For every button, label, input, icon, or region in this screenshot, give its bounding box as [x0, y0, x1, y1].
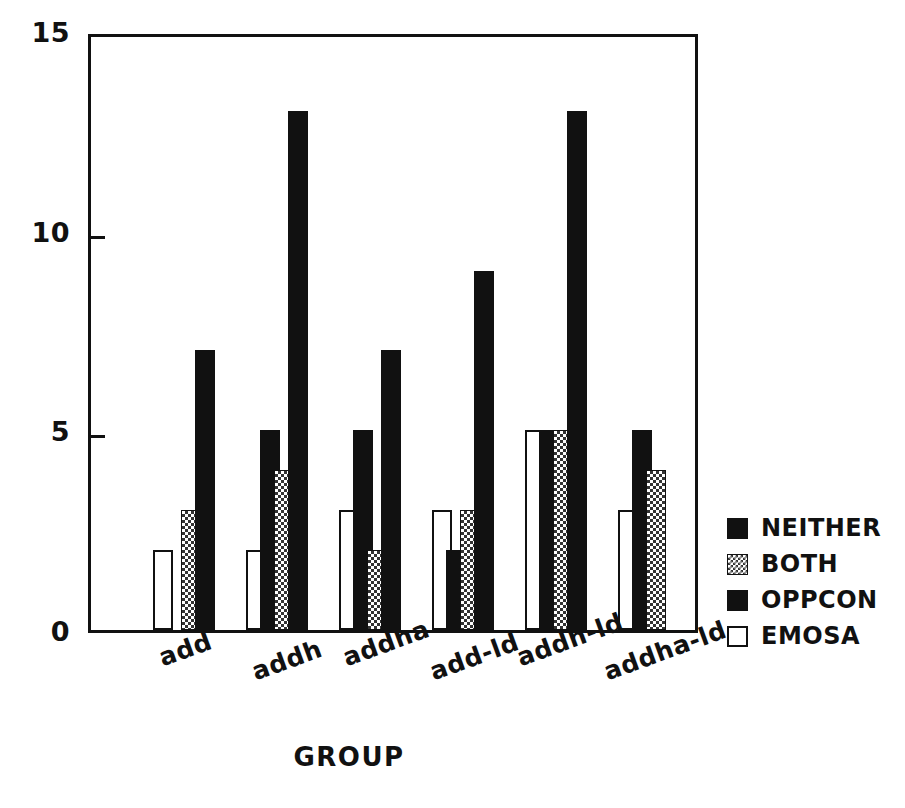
legend-entry-oppcon: OPPCON: [727, 584, 902, 616]
chart-legend: NEITHERBOTHOPPCONEMOSA: [727, 512, 902, 656]
x-tick-label-addh: addh: [248, 634, 326, 686]
legend-swatch-neither: [727, 518, 748, 539]
legend-label-both: BOTH: [761, 552, 838, 576]
plot-area: [91, 37, 695, 630]
legend-entry-emosa: EMOSA: [727, 620, 902, 652]
bar-add-emosa: [153, 550, 173, 630]
y-tick-label-15: 15: [0, 19, 70, 46]
legend-label-neither: NEITHER: [761, 516, 881, 540]
bar-addh-ld-oppcon: [567, 111, 587, 630]
y-tick-label-0: 0: [0, 618, 70, 645]
plot-frame: [88, 34, 698, 633]
bar-chart: 151050 addaddhaddhaadd-ldaddh-ldaddha-ld…: [0, 0, 905, 808]
bar-addh-oppcon: [288, 111, 308, 630]
x-tick-label-add-ld: add-ld: [426, 627, 523, 686]
bar-add-ld-oppcon: [474, 271, 494, 630]
legend-swatch-oppcon: [727, 590, 748, 611]
y-tick-label-5: 5: [0, 418, 70, 445]
legend-entry-both: BOTH: [727, 548, 902, 580]
y-tick-label-10: 10: [0, 219, 70, 246]
x-axis-title: GROUP: [0, 742, 698, 772]
bar-addha-oppcon: [381, 350, 401, 630]
legend-swatch-emosa: [727, 626, 748, 647]
legend-label-emosa: EMOSA: [761, 624, 860, 648]
bar-add-oppcon: [195, 350, 215, 630]
bar-addha-ld-both: [646, 470, 666, 630]
y-tick-mark-5: [90, 435, 105, 438]
x-tick-label-add: add: [155, 626, 216, 672]
legend-swatch-both: [727, 554, 748, 575]
legend-entry-neither: NEITHER: [727, 512, 902, 544]
legend-label-oppcon: OPPCON: [761, 588, 878, 612]
y-tick-mark-10: [90, 236, 105, 239]
